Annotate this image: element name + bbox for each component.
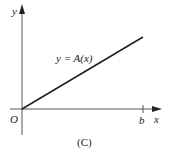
curve-line: [22, 37, 143, 109]
x-tick-label-b: b: [139, 114, 145, 126]
diagram-canvas: y x O b y = A(x) (C): [0, 0, 172, 156]
origin-label: O: [10, 113, 18, 125]
curve-label: y = A(x): [55, 52, 93, 65]
x-axis-arrow-icon: [152, 106, 162, 112]
y-axis-arrow-icon: [19, 4, 25, 14]
y-axis-label: y: [11, 5, 17, 17]
x-axis-label: x: [153, 113, 159, 125]
figure-caption: (C): [77, 136, 92, 149]
